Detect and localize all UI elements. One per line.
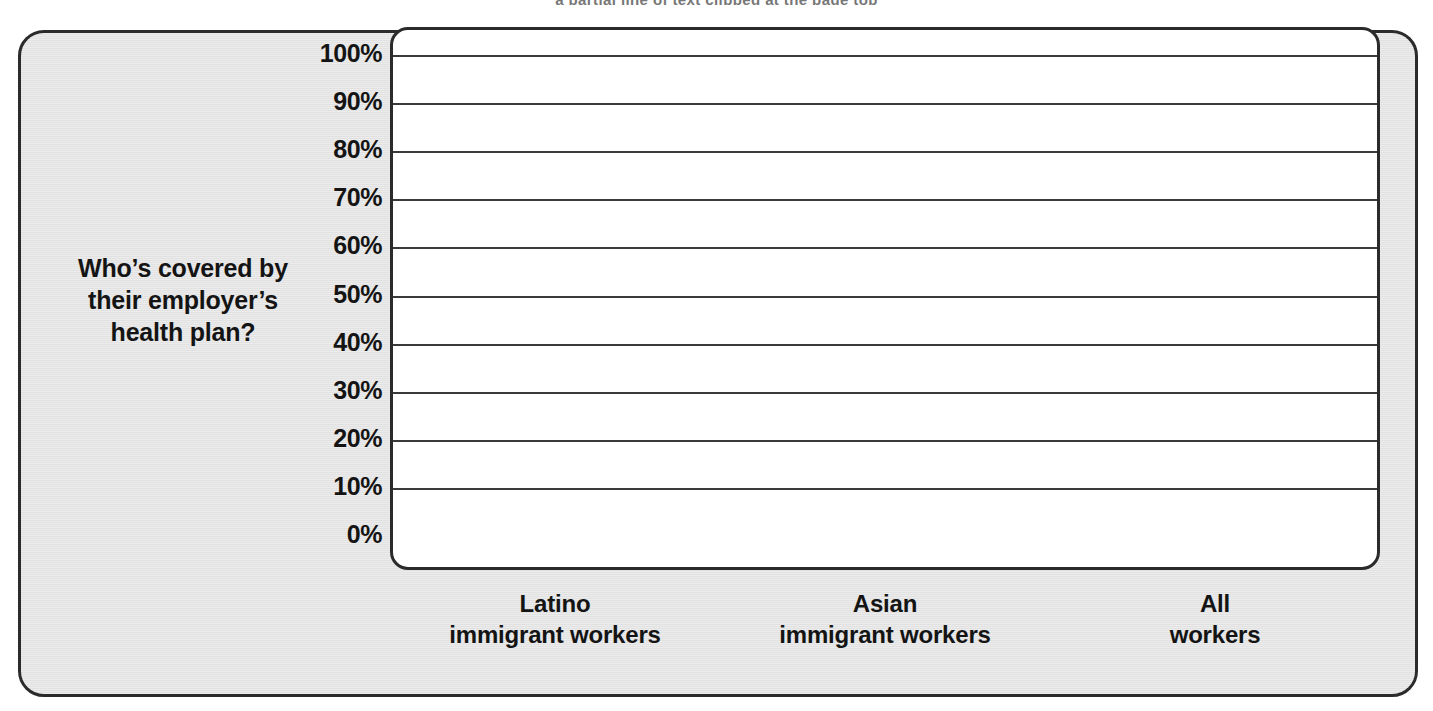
gridline xyxy=(393,199,1377,201)
x-axis: Latinoimmigrant workersAsianimmigrant wo… xyxy=(390,588,1380,658)
gridline xyxy=(393,488,1377,490)
y-axis-tick-label: 60% xyxy=(260,231,382,260)
y-axis-tick-label: 70% xyxy=(260,183,382,212)
y-axis-tick-label: 10% xyxy=(260,471,382,500)
chart-question-line-1: Who’s covered by xyxy=(78,254,288,282)
y-axis: 100%90%80%70%60%50%40%30%20%10%0% xyxy=(260,27,382,570)
x-axis-category-line: immigrant workers xyxy=(390,619,720,650)
x-axis-category-line: Asian xyxy=(853,590,917,617)
gridline xyxy=(393,440,1377,442)
gridline xyxy=(393,344,1377,346)
y-axis-tick-label: 30% xyxy=(260,375,382,404)
x-axis-category-line: workers xyxy=(1050,619,1380,650)
gridline xyxy=(393,392,1377,394)
gridline xyxy=(393,55,1377,57)
chart-question-line-2: their employer’s xyxy=(88,286,278,314)
y-axis-tick-label: 40% xyxy=(260,327,382,356)
x-axis-category-label: Allworkers xyxy=(1050,588,1380,658)
y-axis-tick-label: 100% xyxy=(260,39,382,68)
y-axis-tick-label: 50% xyxy=(260,279,382,308)
gridline xyxy=(393,103,1377,105)
x-axis-category-label: Asianimmigrant workers xyxy=(720,588,1050,658)
y-axis-tick-label: 20% xyxy=(260,423,382,452)
gridline xyxy=(393,296,1377,298)
x-axis-category-line: All xyxy=(1200,590,1230,617)
x-axis-category-label: Latinoimmigrant workers xyxy=(390,588,720,658)
chart-question-line-3: health plan? xyxy=(111,318,256,346)
plot-area xyxy=(390,27,1380,570)
y-axis-tick-label: 90% xyxy=(260,87,382,116)
x-axis-category-line: immigrant workers xyxy=(720,619,1050,650)
gridline xyxy=(393,151,1377,153)
y-axis-tick-label: 80% xyxy=(260,135,382,164)
y-axis-tick-label: 0% xyxy=(260,520,382,549)
x-axis-category-line: Latino xyxy=(520,590,591,617)
clipped-top-caption: a partial line of text clipped at the pa… xyxy=(0,0,1433,5)
gridline xyxy=(393,247,1377,249)
